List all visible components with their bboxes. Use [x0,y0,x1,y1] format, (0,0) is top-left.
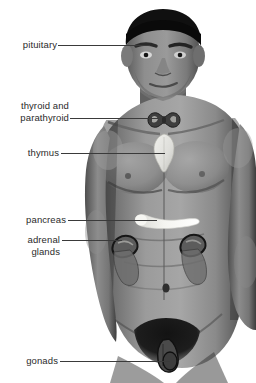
label-adrenal-line1: adrenal [0,234,60,246]
label-gonads-line1: gonads [0,355,58,367]
endocrine-system-diagram: pituitary thyroid and parathyroid thymus… [0,0,256,383]
label-pituitary-line1: pituitary [0,39,57,51]
ear-right [193,45,205,67]
ear-left [121,45,133,67]
label-thyroid-line1: thyroid and [0,100,69,112]
label-thymus-line1: thymus [0,147,59,159]
leader-line-pancreas [68,220,157,221]
forearm-left [85,210,107,254]
pupil-left [144,53,149,58]
label-pituitary: pituitary [0,39,57,51]
nipple-right [199,171,205,177]
deltoid-left [93,130,123,170]
leader-line-adrenal [62,240,122,241]
label-gonads: gonads [0,355,58,367]
leader-line-thymus [61,153,165,154]
label-thyroid-line2: parathyroid [0,112,69,124]
leader-line-pituitary [58,45,150,46]
nipple-left [125,173,131,179]
label-pancreas: pancreas [0,214,66,226]
navel [162,283,169,292]
leader-line-thyroid [70,118,158,119]
male-figure-illustration [0,0,256,383]
deltoid-right [223,128,253,168]
label-thyroid-parathyroid: thyroid and parathyroid [0,100,69,123]
label-adrenal-line2: glands [0,246,60,258]
label-adrenal-glands: adrenal glands [0,234,60,257]
pupil-right [178,53,183,58]
leader-line-gonads [60,361,170,362]
label-thymus: thymus [0,147,59,159]
label-pancreas-line1: pancreas [0,214,66,226]
